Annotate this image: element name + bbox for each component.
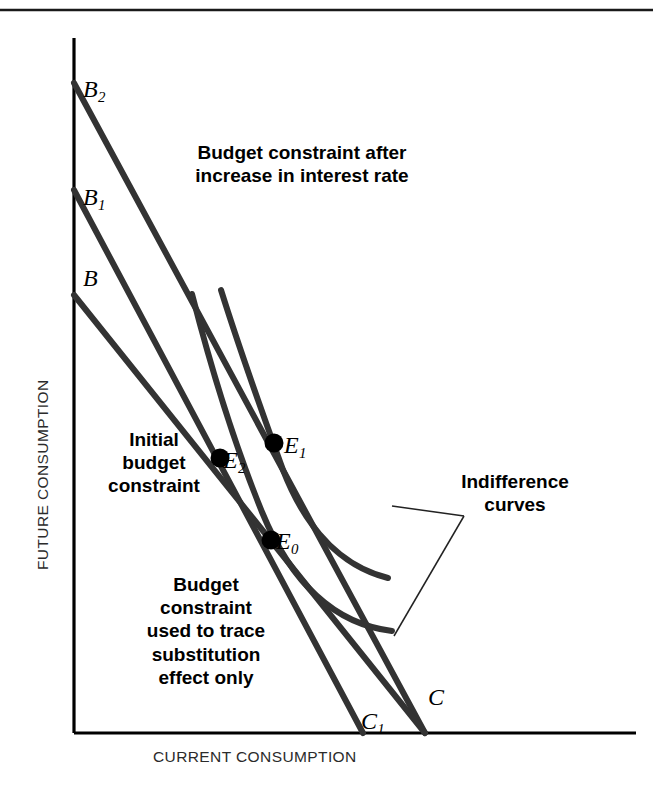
label-e0-base: E [276,528,291,554]
label-c1-subscript: 1 [377,721,384,737]
annotation-indifference-curves: Indifference curves [432,470,598,516]
label-e1: E1 [284,409,306,457]
label-b2: B2 [83,53,105,101]
label-e1-base: E [284,432,299,458]
label-e0-subscript: 0 [291,541,298,557]
label-b1-base: B [83,184,98,210]
label-c1-base: C [361,708,377,734]
annotation-substitution-budget-constraint: Budget constraint used to trace substitu… [118,573,294,689]
figure-container: FUTURE CONSUMPTION CURRENT CONSUMPTION B… [0,0,653,806]
label-e2: E2 [223,424,245,472]
label-b1-subscript: 1 [98,197,105,213]
label-e2-base: E [223,447,238,473]
label-e0: E0 [276,505,298,553]
label-c: C [428,685,444,709]
label-e2-subscript: 2 [238,460,245,476]
equilibrium-point-e1 [265,434,284,453]
diagram-canvas [0,0,653,806]
label-b2-base: B [83,76,98,102]
label-b2-subscript: 2 [98,89,105,105]
annotation-initial-budget-constraint: Initial budget constraint [84,428,224,498]
label-e1-subscript: 1 [299,445,306,461]
y-axis-title: FUTURE CONSUMPTION [34,379,52,570]
label-c1: C1 [361,685,384,733]
x-axis-title: CURRENT CONSUMPTION [153,748,357,766]
label-b: B [83,266,98,290]
label-b1: B1 [83,161,105,209]
annotation-budget-after-increase: Budget constraint after increase in inte… [152,141,452,187]
leader-line-lower [394,516,464,636]
